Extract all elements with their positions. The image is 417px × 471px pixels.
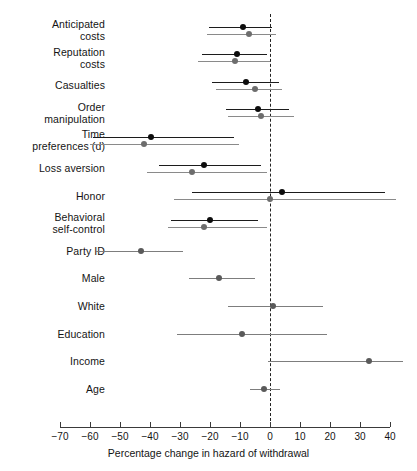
estimate-point xyxy=(141,141,147,147)
x-tick-label--30: −30 xyxy=(172,431,189,442)
category-label-behavioral-self-control: Behavioral self-control xyxy=(5,211,105,235)
estimate-point xyxy=(207,217,213,223)
x-tick--70 xyxy=(60,422,61,427)
estimate-point xyxy=(243,79,249,85)
confidence-interval xyxy=(207,34,276,35)
confidence-interval xyxy=(93,137,234,138)
confidence-interval xyxy=(90,144,239,145)
x-tick-label-10: 10 xyxy=(294,431,305,442)
x-tick--40 xyxy=(150,422,151,427)
estimate-point xyxy=(261,386,267,392)
estimate-point xyxy=(201,224,207,230)
category-label-age: Age xyxy=(5,383,105,395)
x-tick-label--50: −50 xyxy=(112,431,129,442)
estimate-point xyxy=(246,31,252,37)
confidence-interval xyxy=(171,220,258,221)
confidence-interval xyxy=(216,89,282,90)
x-tick-30 xyxy=(360,422,361,427)
category-label-honor: Honor xyxy=(5,190,105,202)
category-label-education: Education xyxy=(5,328,105,340)
x-tick--10 xyxy=(240,422,241,427)
category-label-time-preferences: Time preferences (d) xyxy=(5,128,105,152)
category-label-party-id: Party ID xyxy=(5,245,105,257)
x-axis-title: Percentage change in hazard of withdrawa… xyxy=(0,447,417,459)
confidence-interval xyxy=(159,165,261,166)
x-tick-0 xyxy=(270,422,271,427)
estimate-point xyxy=(366,358,372,364)
estimate-point xyxy=(234,51,240,57)
x-tick-label-30: 30 xyxy=(354,431,365,442)
confidence-interval xyxy=(189,278,255,279)
x-axis-line xyxy=(60,427,390,428)
x-tick-20 xyxy=(330,422,331,427)
category-label-male: Male xyxy=(5,272,105,284)
x-tick-10 xyxy=(300,422,301,427)
estimate-point xyxy=(240,24,246,30)
estimate-point xyxy=(252,86,258,92)
confidence-interval xyxy=(174,199,396,200)
x-tick-label-40: 40 xyxy=(384,431,395,442)
estimate-point xyxy=(255,106,261,112)
confidence-interval xyxy=(268,361,403,362)
estimate-point xyxy=(270,303,276,309)
confidence-interval xyxy=(147,172,267,173)
x-tick-label--20: −20 xyxy=(202,431,219,442)
estimate-point xyxy=(148,134,154,140)
estimate-point xyxy=(201,162,207,168)
x-tick-label--60: −60 xyxy=(82,431,99,442)
x-tick--30 xyxy=(180,422,181,427)
estimate-point xyxy=(232,58,238,64)
estimate-point xyxy=(216,275,222,281)
category-label-reputation-costs: Reputation costs xyxy=(5,46,105,70)
x-tick-40 xyxy=(390,422,391,427)
category-label-white: White xyxy=(5,300,105,312)
x-tick-label-20: 20 xyxy=(324,431,335,442)
category-label-order-manipulation: Order manipulation xyxy=(5,101,105,125)
category-label-income: Income xyxy=(5,355,105,367)
x-tick-label-0: 0 xyxy=(267,431,273,442)
estimate-point xyxy=(138,248,144,254)
plot-area: Anticipated costsReputation costsCasualt… xyxy=(0,0,417,471)
confidence-interval xyxy=(177,334,327,335)
confidence-interval xyxy=(192,192,385,193)
estimate-point xyxy=(258,113,264,119)
estimate-point xyxy=(279,189,285,195)
x-tick--50 xyxy=(120,422,121,427)
x-tick-label--70: −70 xyxy=(52,431,69,442)
forest-plot: Anticipated costsReputation costsCasualt… xyxy=(0,0,417,471)
estimate-point xyxy=(189,169,195,175)
x-tick-label--10: −10 xyxy=(232,431,249,442)
estimate-point xyxy=(239,331,245,337)
category-label-casualties: Casualties xyxy=(5,79,105,91)
estimate-point xyxy=(267,196,273,202)
confidence-interval xyxy=(168,227,267,228)
x-tick--20 xyxy=(210,422,211,427)
zero-reference-line xyxy=(270,14,271,426)
category-label-loss-aversion: Loss aversion xyxy=(5,162,105,174)
x-tick--60 xyxy=(90,422,91,427)
category-label-anticipated-costs: Anticipated costs xyxy=(5,18,105,42)
x-tick-label--40: −40 xyxy=(142,431,159,442)
